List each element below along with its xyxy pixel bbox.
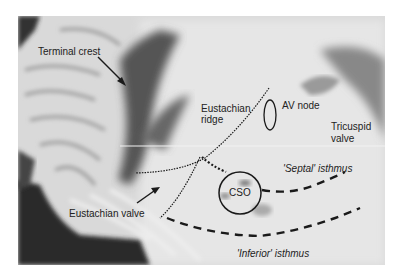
- anatomical-figure: Terminal crest Eustachian ridge AV node …: [0, 0, 401, 279]
- label-eustachian-ridge-line2: ridge: [201, 114, 223, 125]
- label-cso: CSO: [229, 187, 251, 198]
- label-tricuspid-line1: Tricuspid: [331, 121, 371, 132]
- label-septal-isthmus: 'Septal' isthmus: [283, 163, 352, 174]
- label-inferior-isthmus: 'Inferior' isthmus: [237, 248, 309, 259]
- label-av-node: AV node: [282, 100, 320, 111]
- label-eustachian-ridge-line1: Eustachian: [201, 103, 250, 114]
- label-tricuspid-line2: valve: [331, 133, 354, 144]
- label-eustachian-valve: Eustachian valve: [69, 208, 145, 219]
- label-terminal-crest: Terminal crest: [38, 46, 100, 57]
